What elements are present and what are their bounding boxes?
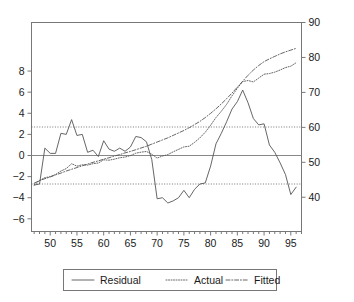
data-series-group [34, 48, 296, 203]
y-right-tick-label: 50 [309, 156, 321, 168]
y-left-tick-label: 0 [19, 149, 25, 161]
chart-canvas: 50556065707580859095 86420−2−4−6 9080706… [0, 0, 354, 302]
series-line-residual [34, 90, 296, 203]
y-left-tick-label: 6 [19, 86, 25, 98]
chart-legend: ResidualActualFitted [64, 270, 281, 291]
y-left-tick-label: −2 [13, 170, 25, 182]
series-line-fitted [34, 48, 296, 183]
y-right-tick-label: 40 [309, 191, 321, 203]
y-axis-right: 908070605040 [302, 16, 321, 203]
y-left-tick-label: −6 [13, 213, 25, 225]
y-right-tick-label: 70 [309, 86, 321, 98]
x-tick-label: 60 [98, 237, 110, 249]
x-tick-label: 80 [205, 237, 217, 249]
y-axis-left: 86420−2−4−6 [13, 65, 32, 225]
x-tick-label: 70 [151, 237, 163, 249]
y-right-tick-label: 80 [309, 51, 321, 63]
x-axis: 50556065707580859095 [34, 232, 301, 249]
y-left-tick-label: 4 [19, 107, 25, 119]
x-tick-label: 75 [178, 237, 190, 249]
legend-label-fitted: Fitted [254, 274, 280, 286]
x-tick-label: 65 [125, 237, 137, 249]
y-left-tick-label: 2 [19, 128, 25, 140]
x-tick-label: 85 [231, 237, 243, 249]
x-tick-label: 95 [285, 237, 297, 249]
x-tick-label: 55 [71, 237, 83, 249]
x-tick-label: 50 [44, 237, 56, 249]
y-right-tick-label: 60 [309, 121, 321, 133]
legend-label-residual: Residual [100, 274, 141, 286]
y-right-tick-label: 90 [309, 16, 321, 28]
y-left-tick-label: 8 [19, 65, 25, 77]
y-left-tick-label: −4 [13, 191, 25, 203]
x-tick-label: 90 [258, 237, 270, 249]
reference-lines-group [32, 127, 302, 184]
legend-label-actual: Actual [194, 274, 223, 286]
residual-actual-fitted-chart: 50556065707580859095 86420−2−4−6 9080706… [0, 0, 354, 302]
